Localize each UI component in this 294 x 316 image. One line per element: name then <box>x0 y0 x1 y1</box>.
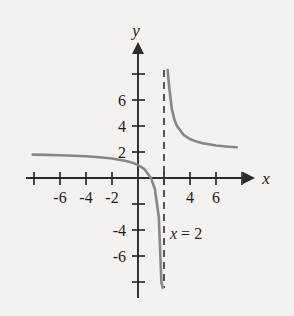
x-tick-label--4: -4 <box>79 189 92 206</box>
x-axis-arrowhead <box>243 172 255 184</box>
curve-right-branch <box>168 70 237 147</box>
y-tick-label-6: 6 <box>118 92 126 109</box>
asymptote-label-value: 2 <box>194 225 202 242</box>
page-bleedthrough <box>0 292 294 316</box>
y-tick-label--6: -6 <box>113 248 126 265</box>
asymptote-label-equals: = <box>181 225 190 242</box>
asymptote-label: x=2 <box>169 225 202 242</box>
x-tick-label--2: -2 <box>105 189 118 206</box>
y-axis-arrowhead <box>132 42 144 54</box>
x-axis-label: x <box>261 169 270 188</box>
y-tick-label--4: -4 <box>113 222 126 239</box>
x-tick-label-4: 4 <box>186 189 194 206</box>
y-tick-label-4: 4 <box>118 118 126 135</box>
x-tick-label-6: 6 <box>212 189 220 206</box>
asymptote-label-variable: x <box>169 225 177 242</box>
curve-left-branch <box>33 155 163 288</box>
coordinate-plane-svg: -6 -4 -2 4 6 x 6 4 2 -4 -6 y <box>0 0 294 316</box>
y-axis-label: y <box>130 21 140 40</box>
x-tick-label--6: -6 <box>53 189 66 206</box>
